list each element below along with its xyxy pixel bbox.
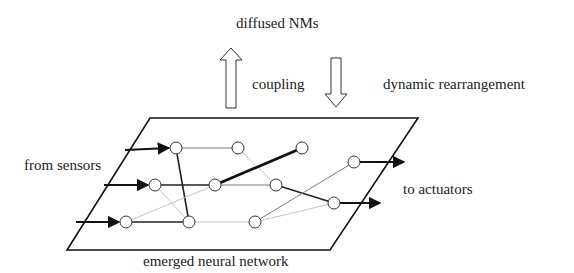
coupling-label: coupling — [252, 77, 305, 92]
to-actuators-label: to actuators — [403, 182, 473, 197]
neural-network-diagram — [0, 0, 574, 273]
neuron-node-E — [209, 179, 221, 191]
edge-J-K — [255, 203, 334, 222]
from-sensors-label: from sensors — [24, 158, 101, 173]
neuron-node-I — [183, 216, 195, 228]
neuron-node-H — [120, 216, 132, 228]
dynamic-rearrangement-label: dynamic rearrangement — [383, 77, 525, 92]
edge-E-C — [215, 148, 302, 185]
neuron-node-F — [270, 179, 282, 191]
neuron-node-A — [170, 142, 182, 154]
emerged-neural-network-label: emerged neural network — [143, 254, 289, 269]
edge-J-G — [255, 162, 354, 222]
edge-H-E — [126, 185, 215, 222]
diffused-nms-label: diffused NMs — [236, 16, 319, 31]
network-plane — [67, 118, 418, 250]
down-arrow-icon — [325, 58, 347, 107]
up-arrow-icon — [220, 48, 242, 108]
neuron-node-B — [232, 142, 244, 154]
neuron-node-G — [348, 156, 360, 168]
neuron-node-K — [328, 197, 340, 209]
neuron-node-J — [249, 216, 261, 228]
neuron-node-C — [296, 142, 308, 154]
edge-F-K — [276, 185, 334, 203]
neuron-node-D — [149, 179, 161, 191]
